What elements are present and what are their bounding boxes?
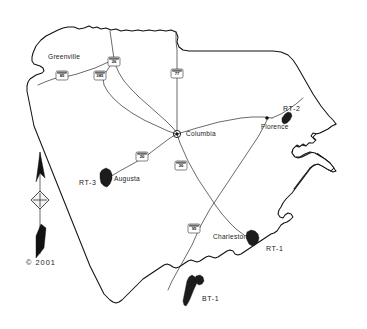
shield-label-i77: 77	[174, 72, 181, 76]
site-label-rt-1: RT-1	[266, 245, 283, 252]
shield-label-i20: 20	[139, 155, 146, 159]
city-label-florence: Florence	[261, 124, 289, 131]
compass-rose	[31, 152, 49, 258]
shield-label-i95: 95	[191, 227, 198, 231]
shield-label-i85: 85	[59, 74, 66, 78]
capital-dot-columbia	[175, 132, 178, 135]
site-label-rt-3: RT-3	[79, 179, 96, 186]
site-label-rt-2: RT-2	[283, 105, 300, 112]
copyright-notice: © 2001	[26, 258, 56, 267]
city-label-greenville: Greenville	[48, 54, 80, 61]
city-label-augusta: Augusta	[114, 176, 140, 183]
shield-label-i26-upstate: 26	[111, 60, 118, 64]
city-label-columbia: Columbia	[186, 131, 216, 138]
city-dot-florence	[265, 116, 269, 120]
shield-label-i385: 385	[95, 74, 104, 78]
compass-north-arrow	[36, 152, 45, 182]
site-label-bt-1: BT-1	[202, 295, 219, 302]
city-label-charleston: Charleston	[213, 234, 247, 241]
map-canvas: Greenville Columbia Florence Augusta Cha…	[0, 0, 367, 329]
site-polygon-bt-1	[183, 275, 197, 306]
compass-south-tail	[36, 224, 46, 258]
shield-label-i26-lowcountry: 26	[178, 164, 185, 168]
